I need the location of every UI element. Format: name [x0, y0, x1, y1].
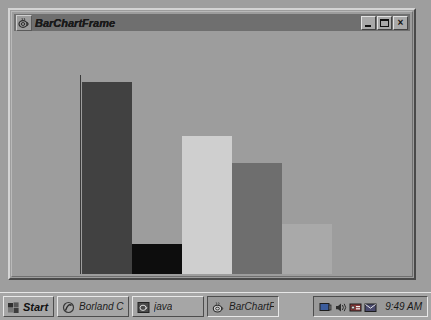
task-label-borland: Borland C... — [79, 301, 124, 312]
window-title: BarChartFrame — [35, 17, 361, 29]
bar-chart-window: BarChartFrame × — [8, 8, 416, 280]
close-icon: × — [394, 17, 407, 29]
java-console-icon — [137, 300, 150, 313]
task-button-borland[interactable]: Borland C... — [57, 296, 129, 317]
maximize-icon — [380, 19, 389, 27]
bar-chart — [14, 33, 410, 274]
display-icon[interactable] — [319, 300, 332, 313]
start-label: Start — [23, 301, 48, 313]
taskbar: Start Borland C... java — [0, 292, 431, 320]
minimize-button[interactable] — [361, 16, 376, 30]
bar-3 — [182, 136, 232, 274]
windows-flag-icon — [7, 300, 20, 313]
maximize-button[interactable] — [377, 16, 392, 30]
bar-1 — [82, 82, 132, 274]
task-button-barchartframe[interactable]: BarChartF... — [207, 296, 279, 317]
start-button[interactable]: Start — [3, 296, 54, 317]
java-coffee-cup-icon — [212, 300, 225, 313]
bar-2 — [132, 244, 182, 274]
window-inner-frame: BarChartFrame × — [11, 11, 413, 277]
clock[interactable]: 9:49 AM — [385, 301, 422, 312]
modem-icon[interactable] — [349, 300, 362, 313]
title-bar[interactable]: BarChartFrame × — [14, 14, 410, 31]
close-button[interactable]: × — [393, 16, 408, 30]
minimize-icon — [365, 25, 371, 27]
system-tray: 9:49 AM — [313, 296, 428, 317]
bar-4 — [232, 163, 282, 274]
borland-icon — [62, 300, 75, 313]
desktop: BarChartFrame × — [0, 0, 431, 320]
volume-icon[interactable] — [334, 300, 347, 313]
y-axis — [80, 75, 81, 274]
task-label-barchartframe: BarChartF... — [229, 301, 274, 312]
window-controls: × — [361, 16, 408, 30]
mail-icon[interactable] — [364, 300, 377, 313]
chart-client-area — [14, 33, 410, 274]
bar-5 — [282, 224, 332, 274]
task-button-java[interactable]: java — [132, 296, 204, 317]
task-label-java: java — [154, 301, 172, 312]
java-coffee-cup-icon[interactable] — [16, 15, 32, 31]
